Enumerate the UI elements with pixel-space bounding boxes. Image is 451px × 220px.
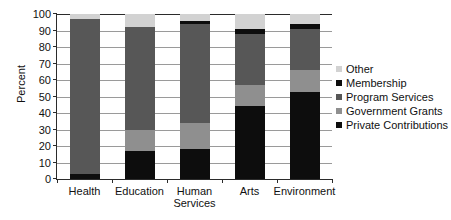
x-tick-mark [332,179,333,183]
x-tick-label: Education [115,185,164,197]
y-tick-label: 40 [39,107,51,119]
legend-swatch-icon [336,108,342,114]
x-tick-mark [112,179,113,183]
bars-layer [57,14,332,179]
bar-segment[interactable] [235,106,265,179]
y-tick-label: 50 [39,91,51,103]
x-tick-mark [167,179,168,183]
y-tick-label: 60 [39,74,51,86]
legend-item[interactable]: Private Contributions [336,118,451,132]
legend-label: Program Services [346,92,433,103]
legend-swatch-icon [336,122,342,128]
bar-stack [235,14,265,179]
x-tick-label: Health [69,185,101,197]
legend-swatch-icon [336,94,342,100]
legend-label: Government Grants [346,106,443,117]
legend-swatch-icon [336,66,342,72]
bar-segment[interactable] [235,29,265,34]
bar-segment[interactable] [180,14,210,21]
legend-label: Other [346,64,374,75]
bar-group[interactable] [235,14,265,179]
y-tick-label: 100 [33,8,51,20]
bar-segment[interactable] [180,24,210,123]
y-tick-label: 70 [39,58,51,70]
legend-label: Private Contributions [346,120,448,131]
bar-segment[interactable] [235,34,265,85]
bar-segment[interactable] [235,85,265,106]
x-tick-mark [57,179,58,183]
stacked-bar-chart: Percent 0102030405060708090100 HealthEdu… [0,0,451,220]
y-tick-label: 20 [39,140,51,152]
x-tick-label-line: Services [173,197,215,209]
x-tick-mark [222,179,223,183]
legend-label: Membership [346,78,407,89]
legend-item[interactable]: Government Grants [336,104,451,118]
x-tick-mark [277,179,278,183]
bar-segment[interactable] [180,149,210,179]
bar-segment[interactable] [70,174,100,179]
bar-stack [70,14,100,179]
x-tick-label: HumanServices [173,185,215,209]
x-tick-label: Environment [274,185,336,197]
y-tick-label: 30 [39,124,51,136]
bar-segment[interactable] [290,29,320,70]
bar-segment[interactable] [290,70,320,91]
x-tick-label-line: Human [173,185,215,197]
x-tick-label: Arts [240,185,260,197]
y-tick-label: 0 [45,173,51,185]
bar-segment[interactable] [125,27,155,129]
legend: OtherMembershipProgram ServicesGovernmen… [336,62,451,132]
y-tick-label: 90 [39,25,51,37]
bar-segment[interactable] [70,14,100,19]
bar-segment[interactable] [290,92,320,179]
bar-segment[interactable] [235,14,265,29]
y-axis-title: Percent [15,44,27,124]
bar-segment[interactable] [70,19,100,174]
bar-segment[interactable] [125,14,155,27]
bar-group[interactable] [290,14,320,179]
plot-area: 0102030405060708090100 HealthEducationHu… [56,14,332,180]
bar-segment[interactable] [290,14,320,24]
bar-segment[interactable] [290,24,320,29]
bar-segment[interactable] [180,123,210,149]
bar-stack [290,14,320,179]
legend-item[interactable]: Other [336,62,451,76]
legend-swatch-icon [336,80,342,86]
bar-segment[interactable] [125,151,155,179]
bar-stack [125,14,155,179]
bar-group[interactable] [125,14,155,179]
bar-group[interactable] [180,14,210,179]
bar-segment[interactable] [180,21,210,24]
y-tick-label: 80 [39,41,51,53]
legend-item[interactable]: Membership [336,76,451,90]
bar-group[interactable] [70,14,100,179]
y-tick-label: 10 [39,157,51,169]
x-tick-label-line: Education [115,185,164,197]
x-tick-label-line: Arts [240,185,260,197]
bar-segment[interactable] [125,130,155,151]
bar-stack [180,14,210,179]
legend-item[interactable]: Program Services [336,90,451,104]
x-tick-label-line: Health [69,185,101,197]
x-tick-label-line: Environment [274,185,336,197]
